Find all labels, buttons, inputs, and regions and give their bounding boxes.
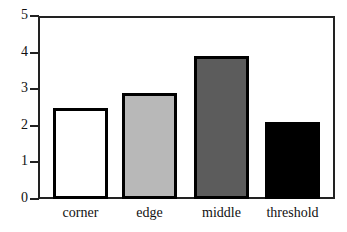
x-tick-label: edge — [110, 205, 190, 221]
bar-corner — [53, 108, 108, 200]
y-tick — [30, 125, 39, 127]
bar-edge — [122, 93, 177, 199]
y-tick-label: 0 — [8, 191, 28, 205]
y-tick-label: 5 — [8, 8, 28, 22]
bar-threshold — [265, 122, 320, 199]
y-tick-label: 3 — [8, 81, 28, 95]
y-tick — [30, 161, 39, 163]
x-tick-label: corner — [41, 205, 121, 221]
bar-middle — [194, 56, 249, 199]
y-tick-label: 4 — [8, 45, 28, 59]
y-tick-label: 1 — [8, 154, 28, 168]
y-tick — [30, 88, 39, 90]
y-tick — [30, 52, 39, 54]
y-tick — [30, 198, 39, 200]
x-tick-label: threshold — [253, 205, 333, 221]
y-tick-label: 2 — [8, 118, 28, 132]
x-tick-label: middle — [182, 205, 262, 221]
y-tick — [30, 15, 39, 17]
